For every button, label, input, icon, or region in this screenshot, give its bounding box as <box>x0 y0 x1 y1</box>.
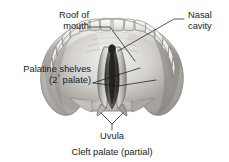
label-nasal-cavity: Nasal cavity <box>188 10 212 31</box>
leader-uvula <box>101 113 123 124</box>
label-roof-of-mouth-line1: Roof of <box>59 10 89 20</box>
tooth-incisor-1 <box>100 18 111 31</box>
label-uvula: Uvula <box>100 131 125 141</box>
label-palatine-shelves: Palatine shelves (2° palate) <box>23 64 91 85</box>
label-palatine-shelves-line2: (2° palate) <box>49 74 91 86</box>
label-nasal-cavity-line1: Nasal <box>188 10 212 20</box>
cleft-palate-figure: Roof of mouth Nasal cavity Palatine shel… <box>0 0 229 162</box>
figure-canvas: Roof of mouth Nasal cavity Palatine shel… <box>0 0 229 162</box>
nasal-cavity-aperture <box>108 44 116 53</box>
tooth-incisor-2 <box>113 18 124 31</box>
label-roof-of-mouth-line2: mouth <box>63 21 89 31</box>
tooth-canine-right <box>135 20 146 32</box>
label-roof-of-mouth: Roof of mouth <box>59 10 89 31</box>
label-nasal-cavity-line2: cavity <box>188 21 212 31</box>
label-palatine-shelves-line1: Palatine shelves <box>23 64 91 74</box>
figure-caption: Cleft palate (partial) <box>71 147 152 157</box>
label-palatine-shelves-paren-open: (2 <box>49 75 57 85</box>
label-palatine-shelves-suffix: palate) <box>60 75 91 85</box>
